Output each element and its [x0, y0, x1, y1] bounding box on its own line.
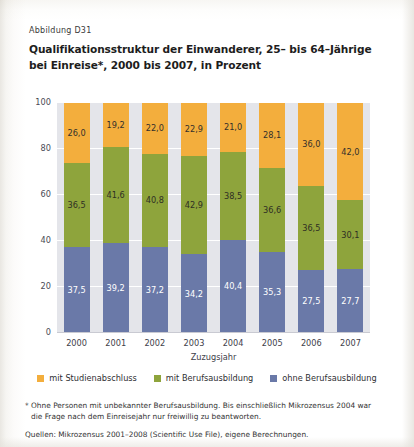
bar-segment[interactable]: 27,5	[298, 270, 324, 333]
footnote-line-1: * Ohne Personen mit unbekannter Berufsau…	[25, 401, 371, 410]
bar-segment[interactable]: 34,2	[181, 254, 207, 333]
bar-segment-label: 42,9	[185, 201, 203, 209]
legend-swatch-studienabschluss	[37, 375, 44, 382]
bar-segment[interactable]: 40,4	[220, 240, 246, 333]
bar-slot: 42,030,127,72007	[331, 103, 370, 333]
bar-segment[interactable]: 22,9	[181, 103, 207, 156]
bar-segment[interactable]: 37,2	[142, 247, 168, 333]
stacked-bar[interactable]: 28,136,635,3	[259, 103, 285, 333]
legend-swatch-berufsausbildung	[154, 375, 161, 382]
x-axis-tick-label: 2000	[66, 338, 87, 348]
bar-segment-label: 22,0	[146, 124, 164, 132]
legend-item-label: mit Studienabschluss	[49, 373, 137, 383]
y-axis-tick-label: 60	[41, 189, 51, 199]
bar-segment[interactable]: 42,9	[181, 156, 207, 255]
bar-segment[interactable]: 28,1	[259, 103, 285, 168]
bar-segment-label: 26,0	[67, 129, 85, 137]
bar-segment[interactable]: 38,5	[220, 152, 246, 241]
bar-segment-label: 36,5	[67, 201, 85, 209]
x-axis-tick-label: 2007	[340, 338, 361, 348]
bar-slot: 21,038,540,42004	[214, 103, 253, 333]
bar-group: 26,036,537,5200019,241,639,2200122,040,8…	[57, 103, 370, 333]
legend-item-label: ohne Berufsausbildung	[282, 373, 376, 383]
stacked-bar[interactable]: 42,030,127,7	[337, 103, 363, 333]
axis-baseline	[57, 332, 370, 333]
x-axis-tick-label: 2004	[223, 338, 244, 348]
bar-segment-label: 40,4	[224, 282, 242, 290]
bar-segment[interactable]: 30,1	[337, 200, 363, 269]
footnote: * Ohne Personen mit unbekannter Berufsau…	[25, 400, 397, 422]
y-axis-tick-label: 40	[41, 235, 51, 245]
y-axis-tick-label: 100	[35, 97, 51, 107]
bar-segment-label: 28,1	[263, 131, 281, 139]
bar-segment[interactable]: 19,2	[103, 103, 129, 147]
bar-segment[interactable]: 36,5	[64, 163, 90, 247]
bar-segment-label: 37,5	[67, 286, 85, 294]
figure-label: Abbildung D31	[29, 26, 92, 35]
x-axis-tick-label: 2003	[184, 338, 205, 348]
bar-segment-label: 19,2	[107, 121, 125, 129]
bar-segment[interactable]: 36,5	[298, 186, 324, 270]
bar-slot: 22,942,934,22003	[174, 103, 213, 333]
bar-segment-label: 35,3	[263, 288, 281, 296]
bar-segment-label: 36,6	[263, 206, 281, 214]
footnote-line-2: die Frage nach dem Einreisejahr nur frei…	[25, 411, 397, 422]
chart-plot-area: 020406080100 26,036,537,5200019,241,639,…	[57, 103, 370, 333]
bar-segment-label: 34,2	[185, 290, 203, 298]
stacked-bar[interactable]: 21,038,540,4	[220, 103, 246, 333]
bar-segment-label: 40,8	[146, 196, 164, 204]
x-axis-tick-label: 2001	[105, 338, 126, 348]
y-axis-tick-label: 0	[46, 327, 51, 337]
bar-segment[interactable]: 40,8	[142, 154, 168, 248]
legend-swatch-ohne-berufsausbildung	[270, 375, 277, 382]
legend-item[interactable]: mit Berufsausbildung	[154, 373, 253, 383]
chart-notes: * Ohne Personen mit unbekannter Berufsau…	[25, 400, 397, 440]
bar-segment[interactable]: 22,0	[142, 103, 168, 154]
x-axis-tick-label: 2005	[262, 338, 283, 348]
bar-segment[interactable]: 37,5	[64, 247, 90, 333]
bar-segment[interactable]: 39,2	[103, 243, 129, 333]
bar-slot: 36,036,527,52006	[292, 103, 331, 333]
bar-segment[interactable]: 27,7	[337, 269, 363, 333]
bar-segment-label: 37,2	[146, 286, 164, 294]
title-line-1: Qualifikationsstruktur der Einwanderer, …	[29, 43, 371, 55]
stacked-bar[interactable]: 22,942,934,2	[181, 103, 207, 333]
bar-segment-label: 27,7	[341, 297, 359, 305]
title-line-2: bei Einreise*, 2000 bis 2007, in Prozent	[29, 59, 261, 71]
bar-segment[interactable]: 26,0	[64, 103, 90, 163]
bar-segment-label: 30,1	[341, 231, 359, 239]
bar-segment[interactable]: 35,3	[259, 252, 285, 333]
legend-item[interactable]: ohne Berufsausbildung	[270, 373, 376, 383]
bar-segment[interactable]: 36,0	[298, 103, 324, 186]
bar-slot: 22,040,837,22002	[135, 103, 174, 333]
bar-segment-label: 42,0	[341, 148, 359, 156]
bar-segment-label: 36,0	[302, 140, 320, 148]
bar-segment-label: 39,2	[107, 284, 125, 292]
x-axis-title: Zuzugsjahr	[57, 352, 370, 362]
stacked-bar[interactable]: 22,040,837,2	[142, 103, 168, 333]
bar-segment[interactable]: 41,6	[103, 147, 129, 243]
bar-segment[interactable]: 36,6	[259, 168, 285, 252]
chart-legend: mit Studienabschlussmit Berufsausbildung…	[0, 373, 414, 383]
y-axis-tick-label: 20	[41, 281, 51, 291]
page-title: Qualifikationsstruktur der Einwanderer, …	[29, 42, 384, 73]
stacked-bar[interactable]: 19,241,639,2	[103, 103, 129, 333]
legend-item[interactable]: mit Studienabschluss	[37, 373, 137, 383]
x-axis-tick-label: 2006	[301, 338, 322, 348]
stacked-bar[interactable]: 36,036,527,5	[298, 103, 324, 333]
x-axis-tick-label: 2002	[144, 338, 165, 348]
bar-slot: 19,241,639,22001	[96, 103, 135, 333]
bar-segment-label: 21,0	[224, 123, 242, 131]
source-note: Quellen: Mikrozensus 2001–2008 (Scientif…	[25, 429, 397, 440]
legend-item-label: mit Berufsausbildung	[166, 373, 253, 383]
bar-slot: 28,136,635,32005	[253, 103, 292, 333]
y-axis-tick-label: 80	[41, 143, 51, 153]
bar-segment-label: 22,9	[185, 125, 203, 133]
bar-segment-label: 27,5	[302, 297, 320, 305]
stacked-bar[interactable]: 26,036,537,5	[64, 103, 90, 333]
bar-slot: 26,036,537,52000	[57, 103, 96, 333]
bar-segment[interactable]: 42,0	[337, 103, 363, 200]
bar-segment-label: 36,5	[302, 224, 320, 232]
bar-segment-label: 38,5	[224, 192, 242, 200]
bar-segment[interactable]: 21,0	[220, 103, 246, 151]
